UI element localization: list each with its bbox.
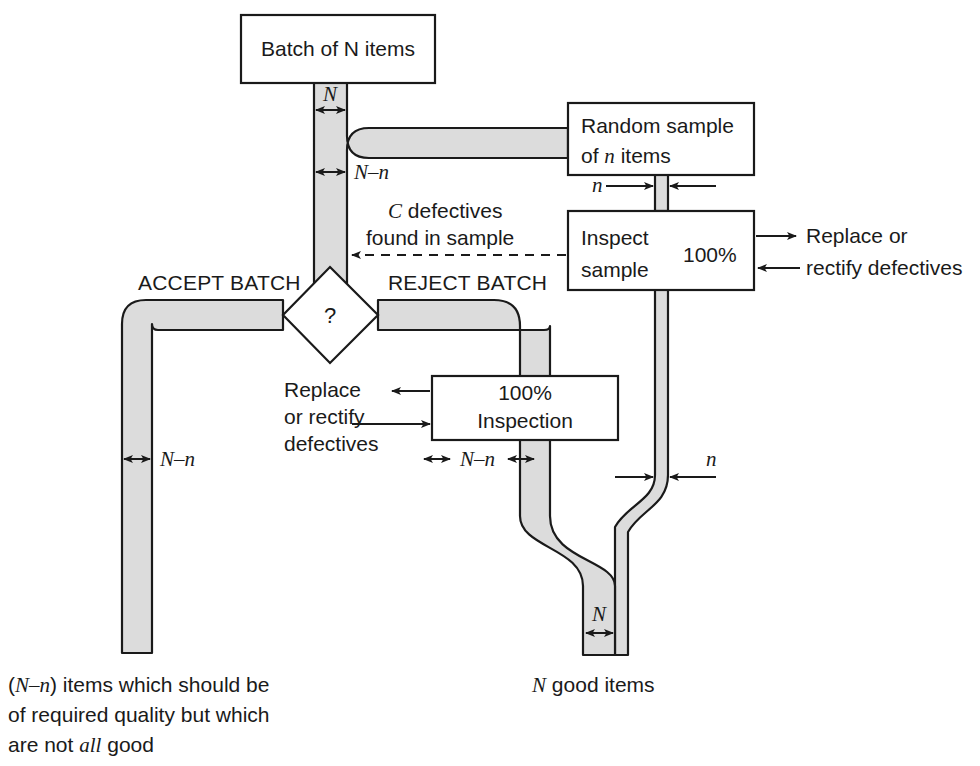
bottom-captions: (N–n) items which should be of required … [8,673,655,757]
box-full-inspection-label-line1: 100% [498,381,552,404]
decision-diamond-label: ? [324,303,336,328]
full-io-label-line1: Replace [284,378,361,401]
c-defectives-line2: found in sample [366,226,514,249]
caption-left-line1: (N–n) items which should be [8,673,269,697]
dim-label-left-column-nminusn: N–n [159,447,195,471]
box-random-sample-label-line1: Random sample [581,114,734,137]
full-inspection-io: Replace or rectify defectives [284,378,430,455]
box-batch-label: Batch of N items [261,37,415,60]
pipe-sample-to-inspect [655,174,668,211]
pipe-reject-branch [378,300,550,380]
inspect-sample-io: Replace or rectify defectives [756,224,962,279]
caption-bottom-good-items: N good items [531,673,655,697]
c-defectives-line1: C defectives [388,199,502,223]
accept-batch-label: ACCEPT BATCH [138,271,301,294]
diagram-canvas: Batch of N items Random sample of n item… [0,0,980,766]
reject-batch-label: REJECT BATCH [388,271,547,294]
full-io-label-line2: or rectify [284,405,365,428]
dim-label-merge-n: n [706,447,717,471]
pipe-accept-branch [122,300,283,653]
box-random-sample-label-line2: of n items [581,144,671,168]
dim-label-full-nminusn: N–n [459,447,495,471]
feedback-annotation: C defectives found in sample [352,199,566,255]
box-inspect-sample-label-line2: sample [581,258,649,281]
box-inspect-sample-label-line1: Inspect [581,226,649,249]
full-io-label-line3: defectives [284,432,379,455]
box-full-inspection-label-line2: Inspection [477,409,573,432]
caption-left-line3: are not all good [8,733,154,757]
box-inspect-sample-percent: 100% [683,243,737,266]
dim-label-bottom-n: N [591,602,607,626]
inspect-io-label-line2: rectify defectives [806,256,962,279]
flow-diagram-svg: Batch of N items Random sample of n item… [0,0,980,766]
dim-label-top-n: N [322,82,338,106]
dim-label-sample-n: n [592,173,603,197]
pipe-inspect-to-merge [615,290,668,655]
caption-left-line2: of required quality but which [8,703,270,726]
dim-label-trunk-nminusn: N–n [353,160,389,184]
inspect-io-label-line1: Replace or [806,224,908,247]
